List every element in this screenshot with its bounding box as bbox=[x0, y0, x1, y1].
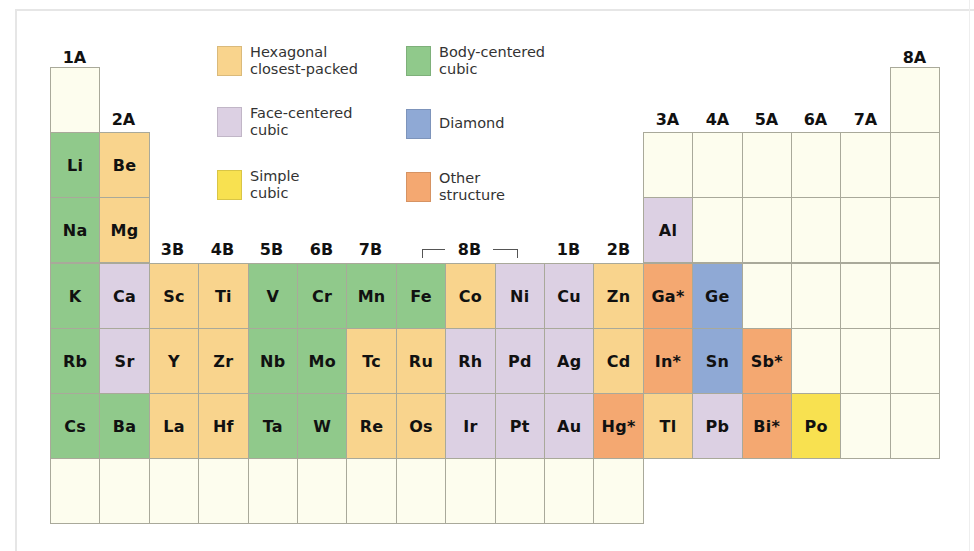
group-label-4b: 4B bbox=[198, 240, 247, 259]
group-label-7a: 7A bbox=[841, 110, 890, 129]
element-cell-na: Na bbox=[50, 197, 100, 263]
empty-cell bbox=[890, 263, 940, 329]
legend-label-diamond: Diamond bbox=[439, 115, 504, 132]
legend-swatch-other bbox=[406, 172, 431, 202]
empty-cell bbox=[593, 458, 643, 524]
element-cell-bi: Bi* bbox=[742, 393, 792, 459]
legend-swatch-bcc bbox=[406, 46, 431, 76]
empty-cell bbox=[890, 328, 940, 394]
group-label-3a: 3A bbox=[643, 110, 692, 129]
bracket-8b-left bbox=[422, 249, 445, 258]
empty-cell bbox=[495, 458, 545, 524]
legend-item-diamond: Diamond bbox=[406, 107, 504, 139]
empty-cell bbox=[742, 263, 792, 329]
element-cell-mn: Mn bbox=[346, 263, 396, 329]
legend-swatch-diamond bbox=[406, 109, 431, 139]
frame-top-border bbox=[15, 9, 974, 11]
empty-cell bbox=[198, 458, 248, 524]
element-cell-ca: Ca bbox=[99, 263, 149, 329]
group-label-6a: 6A bbox=[791, 110, 840, 129]
empty-cell bbox=[742, 132, 792, 198]
element-cell-sn: Sn bbox=[692, 328, 742, 394]
element-cell-nb: Nb bbox=[248, 328, 298, 394]
empty-cell bbox=[445, 458, 495, 524]
empty-cell bbox=[840, 197, 890, 263]
group-label-8b: 8B bbox=[445, 240, 494, 259]
element-cell-rh: Rh bbox=[445, 328, 495, 394]
element-cell-mo: Mo bbox=[297, 328, 347, 394]
element-cell-hg: Hg* bbox=[593, 393, 643, 459]
element-cell-v: V bbox=[248, 263, 298, 329]
element-cell-cu: Cu bbox=[544, 263, 594, 329]
group-label-3b: 3B bbox=[148, 240, 197, 259]
element-cell-cs: Cs bbox=[50, 393, 100, 459]
element-cell-ni: Ni bbox=[495, 263, 545, 329]
element-cell-tc: Tc bbox=[346, 328, 396, 394]
element-cell-in: In* bbox=[643, 328, 693, 394]
element-cell-os: Os bbox=[396, 393, 446, 459]
element-cell-zn: Zn bbox=[593, 263, 643, 329]
empty-cell bbox=[840, 328, 890, 394]
frame-right-border bbox=[969, 0, 970, 551]
empty-cell bbox=[643, 132, 693, 198]
empty-cell bbox=[544, 458, 594, 524]
element-cell-rb: Rb bbox=[50, 328, 100, 394]
element-cell-au: Au bbox=[544, 393, 594, 459]
empty-cell bbox=[742, 197, 792, 263]
element-cell-ir: Ir bbox=[445, 393, 495, 459]
empty-cell bbox=[396, 458, 446, 524]
element-cell-ta: Ta bbox=[248, 393, 298, 459]
element-cell-re: Re bbox=[346, 393, 396, 459]
element-cell-sc: Sc bbox=[149, 263, 199, 329]
legend-swatch-hcp bbox=[217, 46, 242, 76]
element-cell-ge: Ge bbox=[692, 263, 742, 329]
empty-cell bbox=[840, 263, 890, 329]
empty-cell bbox=[50, 67, 100, 133]
element-cell-pt: Pt bbox=[495, 393, 545, 459]
empty-cell bbox=[791, 263, 841, 329]
empty-cell bbox=[692, 132, 742, 198]
element-cell-mg: Mg bbox=[99, 197, 149, 263]
group-label-4a: 4A bbox=[693, 110, 742, 129]
empty-cell bbox=[149, 458, 199, 524]
element-cell-al: Al bbox=[643, 197, 693, 263]
empty-cell bbox=[840, 132, 890, 198]
element-cell-sb: Sb* bbox=[742, 328, 792, 394]
group-label-6b: 6B bbox=[297, 240, 346, 259]
element-cell-ti: Ti bbox=[198, 263, 248, 329]
element-cell-ag: Ag bbox=[544, 328, 594, 394]
group-label-5b: 5B bbox=[247, 240, 296, 259]
element-cell-co: Co bbox=[445, 263, 495, 329]
element-cell-sr: Sr bbox=[99, 328, 149, 394]
group-label-8a: 8A bbox=[890, 48, 939, 67]
empty-cell bbox=[692, 197, 742, 263]
legend-item-simple: Simple cubic bbox=[217, 168, 300, 202]
element-cell-ru: Ru bbox=[396, 328, 446, 394]
group-label-2a: 2A bbox=[99, 110, 148, 129]
empty-cell bbox=[890, 132, 940, 198]
legend-label-other: Other structure bbox=[439, 170, 505, 204]
empty-cell bbox=[791, 197, 841, 263]
legend-item-hcp: Hexagonal closest-packed bbox=[217, 44, 358, 78]
element-cell-be: Be bbox=[99, 132, 149, 198]
legend-item-other: Other structure bbox=[406, 170, 505, 204]
element-cell-pd: Pd bbox=[495, 328, 545, 394]
legend-swatch-fcc bbox=[217, 107, 242, 137]
empty-cell bbox=[346, 458, 396, 524]
legend-label-fcc: Face-centered cubic bbox=[250, 105, 352, 139]
group-label-7b: 7B bbox=[346, 240, 395, 259]
element-cell-tl: Tl bbox=[643, 393, 693, 459]
legend-label-bcc: Body-centered cubic bbox=[439, 44, 545, 78]
group-label-5a: 5A bbox=[742, 110, 791, 129]
empty-cell bbox=[248, 458, 298, 524]
empty-cell bbox=[297, 458, 347, 524]
empty-cell bbox=[890, 197, 940, 263]
group-label-1a: 1A bbox=[50, 48, 99, 67]
bracket-8b-right bbox=[493, 249, 518, 258]
empty-cell bbox=[890, 393, 940, 459]
group-label-1b: 1B bbox=[544, 240, 593, 259]
element-cell-zr: Zr bbox=[198, 328, 248, 394]
legend-item-fcc: Face-centered cubic bbox=[217, 105, 352, 139]
element-cell-fe: Fe bbox=[396, 263, 446, 329]
empty-cell bbox=[50, 458, 100, 524]
